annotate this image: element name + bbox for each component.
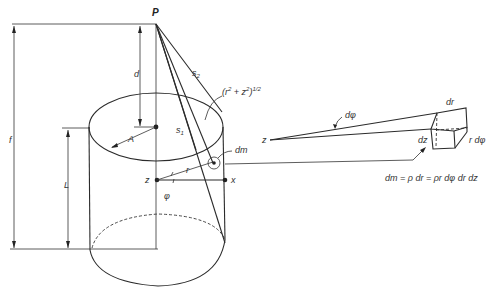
line-s2 bbox=[156, 24, 222, 112]
figure-cylinder-gravitation: P d f L A s1 s2 (r2 + z2)1/2 dm z x r φ … bbox=[0, 0, 495, 289]
d-arrow-bottom-icon bbox=[138, 119, 142, 126]
dphi-arrow-icon bbox=[333, 124, 337, 129]
dm-point bbox=[212, 161, 216, 165]
label-dr: dr bbox=[446, 97, 455, 107]
cylinder-left-side bbox=[89, 127, 90, 250]
label-z: z bbox=[144, 175, 150, 185]
cylinder-bottom-hidden bbox=[92, 214, 225, 248]
label-rdphi: r dφ bbox=[469, 135, 486, 145]
zoom-connector bbox=[225, 149, 424, 164]
box-front-face bbox=[431, 129, 455, 149]
label-hypotenuse: (r2 + z2)1/2 bbox=[222, 86, 261, 97]
L-arrow-bottom-icon bbox=[66, 241, 70, 248]
box-right-edge bbox=[455, 132, 467, 148]
dm-leader bbox=[218, 151, 232, 158]
label-dz: dz bbox=[418, 135, 428, 145]
f-arrow-bottom-icon bbox=[12, 241, 16, 248]
equation-dm: dm = ρ dr = ρr dφ dr dz bbox=[385, 173, 478, 183]
label-phi: φ bbox=[164, 191, 170, 201]
cylinder-bottom-front bbox=[90, 240, 225, 286]
f-arrow-top-icon bbox=[12, 26, 16, 33]
label-dm: dm bbox=[235, 145, 248, 155]
x-point bbox=[223, 178, 228, 183]
cylinder-right-side bbox=[223, 127, 225, 240]
label-x: x bbox=[230, 175, 236, 185]
label-dphi: dφ bbox=[345, 110, 356, 120]
label-A: A bbox=[127, 134, 134, 144]
label-L: L bbox=[64, 180, 69, 190]
label-s1: s1 bbox=[176, 125, 184, 136]
line-to-bottom bbox=[156, 24, 225, 243]
diagram-canvas: P d f L A s1 s2 (r2 + z2)1/2 dm z x r φ … bbox=[0, 0, 495, 289]
label-d: d bbox=[134, 69, 140, 79]
label-zoom-z: z bbox=[261, 135, 267, 145]
radius-A-arrow-icon bbox=[111, 143, 118, 148]
label-P: P bbox=[152, 7, 159, 18]
label-f: f bbox=[9, 135, 13, 145]
L-arrow-top-icon bbox=[66, 130, 70, 137]
d-arrow-top-icon bbox=[138, 26, 142, 33]
wedge-bottom bbox=[270, 129, 431, 140]
label-s2: s2 bbox=[192, 68, 201, 79]
